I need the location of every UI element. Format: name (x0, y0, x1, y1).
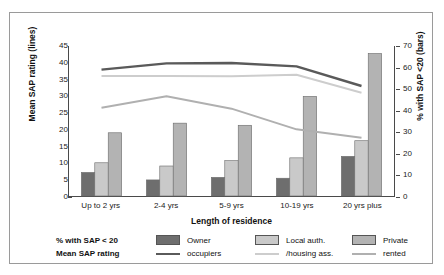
top-caption (90, 0, 290, 6)
legend-row-label-lines: Mean SAP rating (56, 247, 152, 260)
legend-entry-private-rented[interactable]: Private rented (352, 234, 444, 260)
y-axis-left-tick-label: 35 (54, 76, 68, 84)
y-axis-right-tick-label: 0 (403, 193, 419, 201)
chart-figure: Mean SAP rating (lines) % with SAP <20 (… (0, 0, 444, 275)
legend-entry-label-line2: rented (383, 247, 406, 260)
bar (238, 125, 251, 196)
y-axis-right-ticks: 010203040506070 (396, 46, 426, 197)
y-axis-right-tick-mark (396, 68, 400, 69)
chart-legend: % with SAP < 20 Mean SAP rating Owner oc… (56, 234, 416, 260)
bar (160, 166, 173, 196)
y-axis-right-tick-mark (396, 154, 400, 155)
legend-entry-local-authority[interactable]: Local auth. /housing ass. (255, 234, 363, 260)
data-line (102, 75, 362, 93)
legend-swatch-icon (352, 235, 376, 245)
bar (341, 156, 354, 196)
legend-row-label-bars: % with SAP < 20 (56, 234, 152, 247)
y-axis-right-tick-label: 40 (403, 107, 419, 115)
legend-entry-label-line2: occupiers (187, 247, 221, 260)
y-axis-left-tick-label: 15 (54, 143, 68, 151)
chart-frame: Mean SAP rating (lines) % with SAP <20 (… (9, 12, 433, 264)
y-axis-right-tick-mark (396, 132, 400, 133)
bar (146, 180, 159, 196)
bar (368, 54, 381, 197)
y-axis-right-tick-mark (396, 111, 400, 112)
bar (225, 161, 238, 196)
x-axis-category-labels: Up to 2 yrs2-4 yrs5-9 yrs10-19 yrs20 yrs… (68, 201, 395, 213)
legend-entry-label-line1: Private (383, 234, 408, 247)
legend-entry-label-line1: Owner (187, 234, 211, 247)
y-axis-right-tick-label: 60 (403, 64, 419, 72)
x-axis-category-label: 2-4 yrs (133, 201, 198, 213)
y-axis-left-tick-label: 0 (54, 193, 68, 201)
legend-line-icon (255, 253, 279, 255)
x-axis-category-label: Up to 2 yrs (68, 201, 133, 213)
x-axis-category-label: 20 yrs plus (330, 201, 395, 213)
x-axis-title: Length of residence (68, 216, 395, 226)
bar (211, 177, 224, 196)
y-axis-right-tick-label: 10 (403, 171, 419, 179)
x-axis-category-label: 10-19 yrs (264, 201, 329, 213)
legend-line-icon (156, 253, 180, 255)
legend-entry-label-line1: Local auth. (286, 234, 325, 247)
y-axis-left-tick-label: 20 (54, 126, 68, 134)
bar (173, 123, 186, 196)
legend-line-icon (352, 253, 376, 255)
bar (95, 163, 108, 196)
y-axis-left-tick-label: 5 (54, 176, 68, 184)
legend-entry-owner-occupiers[interactable]: Owner occupiers (156, 234, 264, 260)
y-axis-right-tick-label: 30 (403, 128, 419, 136)
y-axis-left-tick-label: 30 (54, 92, 68, 100)
y-axis-right-tick-mark (396, 89, 400, 90)
legend-swatch-icon (255, 235, 279, 245)
y-axis-right-tick-label: 70 (403, 42, 419, 50)
legend-entry-label-line2: /housing ass. (286, 247, 333, 260)
bar (276, 178, 289, 196)
y-axis-right-tick-mark (396, 46, 400, 47)
y-axis-left-tick-mark (68, 197, 72, 198)
y-axis-right-tick-label: 50 (403, 85, 419, 93)
plot-canvas (69, 46, 394, 196)
y-axis-left-tick-label: 25 (54, 109, 68, 117)
legend-row-labels: % with SAP < 20 Mean SAP rating (56, 234, 152, 260)
y-axis-left-ticks: 051015202530354045 (48, 46, 68, 197)
y-axis-right-tick-mark (396, 197, 400, 198)
bar (290, 158, 303, 196)
y-axis-left-title: Mean SAP rating (lines) (27, 4, 37, 144)
y-axis-right-tick-label: 20 (403, 150, 419, 158)
data-line (102, 96, 362, 137)
bar (108, 133, 121, 196)
plot-area (68, 46, 395, 197)
bar (81, 172, 94, 196)
y-axis-left-tick-label: 40 (54, 59, 68, 67)
y-axis-right-tick-mark (396, 175, 400, 176)
y-axis-left-tick-label: 45 (54, 42, 68, 50)
bar (303, 96, 316, 196)
y-axis-left-tick-label: 10 (54, 159, 68, 167)
bar (355, 141, 368, 196)
legend-swatch-icon (156, 235, 180, 245)
x-axis-category-label: 5-9 yrs (199, 201, 264, 213)
